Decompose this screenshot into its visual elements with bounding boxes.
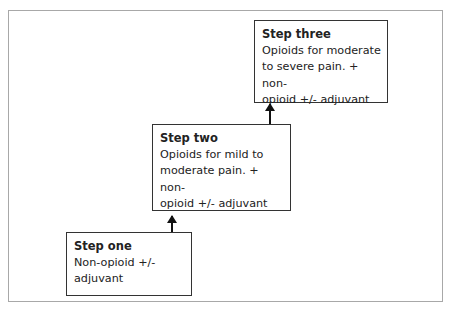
step-three-line-3: opioid +/- adjuvant xyxy=(262,92,381,109)
step-two-title: Step two xyxy=(160,130,284,147)
step-three-title: Step three xyxy=(262,26,381,43)
step-three-box: Step three Opioids for moderate to sever… xyxy=(254,20,388,103)
step-three-line-1: Opioids for moderate xyxy=(262,43,381,60)
step-two-line-3: opioid +/- adjuvant xyxy=(160,196,284,213)
arrow-up-icon xyxy=(269,104,271,124)
step-two-line-1: Opioids for mild to xyxy=(160,147,284,164)
step-two-box: Step two Opioids for mild to moderate pa… xyxy=(152,124,291,211)
step-three-line-2: to severe pain. + non- xyxy=(262,59,381,92)
step-one-line-2: adjuvant xyxy=(74,271,185,288)
arrow-up-icon xyxy=(171,216,173,232)
step-one-title: Step one xyxy=(74,238,185,255)
step-two-line-2: moderate pain. + non- xyxy=(160,163,284,196)
step-one-line-1: Non-opioid +/- xyxy=(74,255,185,272)
step-one-box: Step one Non-opioid +/- adjuvant xyxy=(66,232,192,296)
